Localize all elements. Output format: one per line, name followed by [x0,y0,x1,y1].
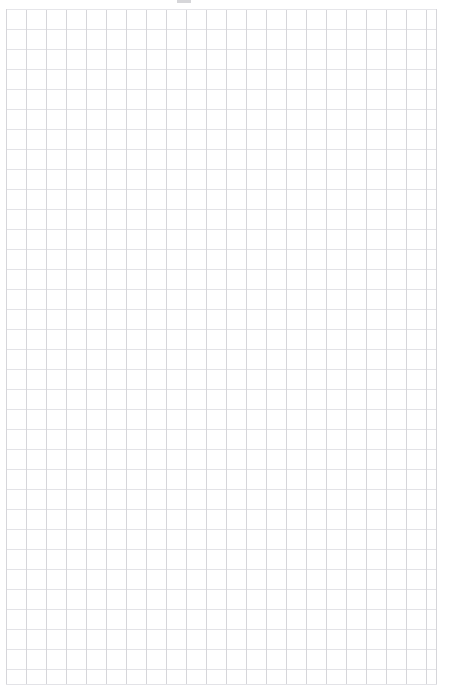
page-canvas [0,0,451,694]
graph-paper-grid [6,9,437,685]
grid-top-border [6,9,437,10]
top-edge-smudge-artifact [177,0,191,3]
grid-bottom-border [6,684,437,685]
grid-right-border [436,9,437,685]
grid-left-border [6,9,7,685]
